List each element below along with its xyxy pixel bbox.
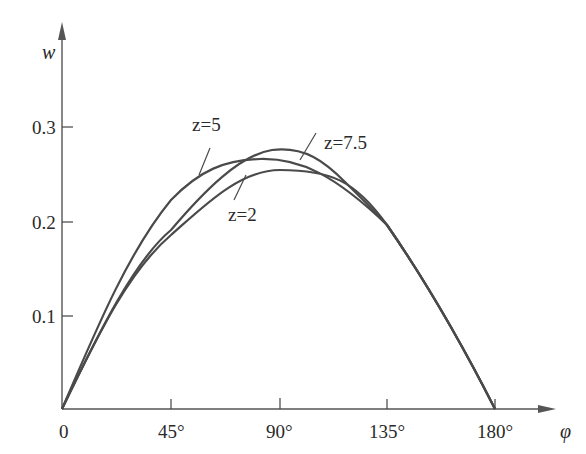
w-vs-phi-chart: 0.1 0.2 0.3 0 45° 90° 135° 180° w φ z=5 … (0, 0, 586, 454)
curves (62, 149, 495, 409)
axes (58, 22, 556, 413)
y-tick-label: 0.2 (32, 212, 56, 233)
label-z7-5: z=7.5 (324, 132, 367, 153)
x-ticks: 0 45° 90° 135° 180° (59, 398, 513, 442)
leader-z2 (234, 175, 246, 200)
x-tick-label: 180° (477, 421, 513, 442)
y-tick-label: 0.3 (32, 117, 56, 138)
x-axis-label: φ (560, 420, 571, 443)
x-tick-label: 90° (266, 421, 293, 442)
y-ticks: 0.1 0.2 0.3 (32, 117, 73, 327)
y-tick-label: 0.1 (32, 306, 56, 327)
y-axis-arrow-icon (58, 22, 66, 40)
label-z2: z=2 (228, 204, 257, 225)
curve-z7-5 (62, 149, 495, 409)
x-axis-arrow-icon (538, 405, 556, 413)
x-tick-label: 45° (158, 421, 185, 442)
y-axis-label: w (42, 41, 56, 63)
x-tick-label: 135° (369, 421, 405, 442)
origin-label: 0 (59, 421, 69, 442)
label-z5: z=5 (192, 114, 221, 135)
